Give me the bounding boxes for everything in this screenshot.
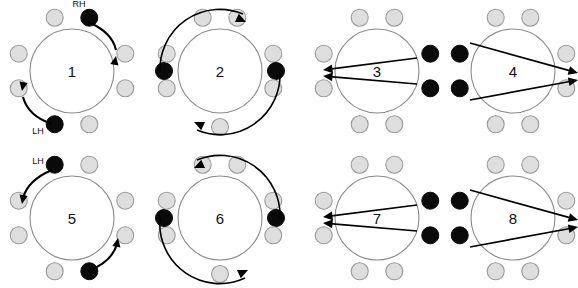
panel-5-number: 5 [68,210,76,227]
panel-7-marker-top-left-inactive [351,156,368,173]
panel-7-marker-top-right-inactive [386,156,403,173]
panel-6-arrow-outer-lower-sweep-head [237,270,248,278]
panel-8-number: 8 [509,210,517,227]
panel-3-arrow-upper-to-left-head [323,64,333,73]
panel-2-marker-right-upper-inactive [265,45,282,62]
panel-8-marker-left-upper-active [451,192,468,209]
panel-7: 7 [305,144,445,288]
panel-5-marker-left-lower-inactive [10,227,27,244]
panel-8: 8 [445,144,578,288]
panel-4-marker-bottom-left-inactive [487,116,504,133]
panel-1-marker-bottom-right-inactive [81,116,98,133]
panel-5-marker-top-right-inactive [81,156,98,173]
panel-7-number: 7 [373,210,381,227]
panel-7-marker-left-upper-inactive [315,192,332,209]
panel-2-marker-left-middle-active [156,63,173,80]
panel-4-number: 4 [509,63,517,80]
panel-1-marker-left-upper-inactive [10,45,27,62]
panel-3-marker-top-right-inactive [386,9,403,26]
panel-7-marker-bottom-left-inactive [351,263,368,280]
panel-8-graphic: 8 [445,144,578,288]
panel-2-marker-bottom-inactive [212,119,229,136]
panel-1-marker-top-left-inactive [46,9,63,26]
panel-1-marker-bottom-left-active [46,116,63,133]
panel-5: 5LH [0,144,145,288]
panel-4-marker-top-right-inactive [522,9,539,26]
panel-6-marker-right-middle-active [268,210,285,227]
panel-6-marker-left-middle-active [156,210,173,227]
panel-6-marker-left-upper-inactive [158,192,175,209]
panel-6-number: 6 [216,210,224,227]
panel-6-marker-top-right-inactive [229,156,246,173]
diagram-canvas: 1RHLH2345LH678 [0,0,578,288]
panel-7-marker-left-lower-inactive [315,227,332,244]
panel-1-graphic: 1RHLH [0,0,145,144]
panel-4-marker-right-upper-inactive [558,45,575,62]
panel-4-marker-top-left-inactive [487,9,504,26]
panel-5-marker-right-upper-inactive [117,192,134,209]
panel-4-marker-left-upper-active [451,45,468,62]
panel-5-label-lh: LH [32,156,44,166]
panel-3-marker-left-upper-inactive [315,45,332,62]
panel-6-graphic: 6 [145,144,305,288]
panel-7-graphic: 7 [305,144,445,288]
panel-3-marker-left-lower-inactive [315,80,332,97]
panel-3-marker-top-left-inactive [351,9,368,26]
panel-2-graphic: 2 [145,0,305,144]
panel-8-marker-top-right-inactive [522,156,539,173]
panel-8-arrow-upper-to-right-head [568,213,578,221]
panel-5-marker-bottom-left-inactive [46,263,63,280]
panel-8-marker-bottom-right-inactive [522,263,539,280]
panel-3-marker-bottom-left-inactive [351,116,368,133]
panel-2: 2 [145,0,305,144]
panel-4-graphic: 4 [445,0,578,144]
panel-8-marker-left-lower-active [451,227,468,244]
panel-8-marker-bottom-left-inactive [487,263,504,280]
panel-4-marker-bottom-right-inactive [522,116,539,133]
panel-3-number: 3 [373,63,381,80]
panel-8-marker-top-left-inactive [487,156,504,173]
panel-1-marker-right-upper-inactive [117,45,134,62]
panel-6-marker-right-lower-inactive [265,227,282,244]
panel-5-graphic: 5LH [0,144,145,288]
panel-2-arrow-outer-lower-sweep-head [194,122,205,130]
panel-6-marker-bottom-inactive [212,266,229,283]
panel-4-marker-left-lower-active [451,80,468,97]
panel-6: 6 [145,144,305,288]
panel-1-number: 1 [68,63,76,80]
panel-1: 1RHLH [0,0,145,144]
panel-3-marker-right-lower-active [422,80,439,97]
panel-4: 4 [445,0,578,144]
panel-7-marker-bottom-right-inactive [386,263,403,280]
panel-5-marker-right-lower-inactive [117,227,134,244]
panel-3: 3 [305,0,445,144]
panel-7-arrow-upper-to-left-head [323,211,333,220]
panel-2-number: 2 [216,63,224,80]
panel-2-marker-right-middle-active [268,63,285,80]
panel-7-marker-right-lower-active [422,227,439,244]
panel-7-marker-right-upper-active [422,192,439,209]
panel-4-arrow-upper-to-right-head [568,66,578,74]
panel-1-label-rh: RH [73,0,86,9]
panel-3-graphic: 3 [305,0,445,144]
panel-3-marker-right-upper-active [422,45,439,62]
panel-1-marker-right-lower-inactive [117,80,134,97]
panel-8-marker-right-upper-inactive [558,192,575,209]
panel-3-marker-bottom-right-inactive [386,116,403,133]
panel-2-marker-left-lower-inactive [158,80,175,97]
panel-1-label-lh: LH [32,126,44,136]
